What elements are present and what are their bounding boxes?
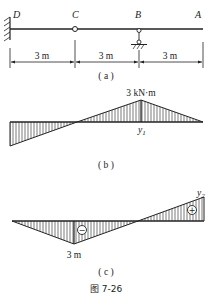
ordinate-label-y1: y1 xyxy=(137,125,146,137)
node-label-a: A xyxy=(194,9,202,20)
panel-b-label: ( b ) xyxy=(98,160,114,171)
svg-text:+: + xyxy=(189,206,196,215)
panel-c-influence-line: − + y2 3 m xyxy=(12,188,205,260)
figure-caption: 图 7-26 xyxy=(90,284,123,294)
dimension-ba: 3 m xyxy=(163,51,178,61)
pin-support-icon xyxy=(131,29,147,50)
ordinate-value-label: 3 m xyxy=(67,250,82,260)
node-label-c: C xyxy=(72,9,79,20)
panel-b-influence-line: 3 kN·m y1 xyxy=(10,88,203,146)
fixed-support-icon xyxy=(4,17,10,41)
figure-7-26: D C B A 3 m 3 m 3 m ( a ) 3 kN·m y1 ( b … xyxy=(0,0,213,305)
panel-c-label: ( c ) xyxy=(98,267,113,278)
panel-a-label: ( a ) xyxy=(98,71,113,82)
ordinate-label-y2: y2 xyxy=(196,188,205,200)
peak-value-label: 3 kN·m xyxy=(126,88,156,98)
node-label-b: B xyxy=(135,9,141,20)
dimension-lines: 3 m 3 m 3 m xyxy=(10,40,203,68)
svg-text:−: − xyxy=(79,226,86,235)
hinge-icon xyxy=(73,27,78,32)
dimension-cb: 3 m xyxy=(99,51,114,61)
panel-a-beam: D C B A xyxy=(4,9,203,49)
dimension-dc: 3 m xyxy=(35,51,50,61)
node-label-d: D xyxy=(12,9,21,20)
